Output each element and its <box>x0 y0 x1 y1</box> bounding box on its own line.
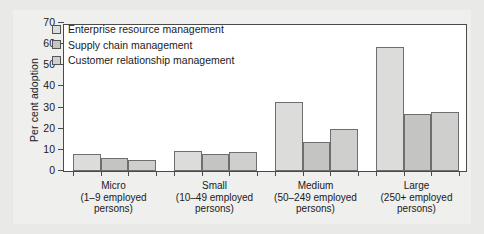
x-axis-tick <box>174 171 175 176</box>
chart-legend: Enterprise resource managementSupply cha… <box>52 22 234 69</box>
y-axis-tick-label: 40 <box>43 79 55 91</box>
category-name: Large <box>366 180 467 192</box>
legend-item[interactable]: Supply chain management <box>52 38 234 52</box>
bar <box>101 158 129 171</box>
x-axis-tick <box>303 171 304 176</box>
y-axis-tick: 20 <box>58 128 64 129</box>
bar <box>174 151 202 171</box>
x-axis-category-label: Large(250+ employedpersons) <box>366 180 467 215</box>
x-axis-category-label: Micro(1–9 employedpersons) <box>63 180 164 215</box>
x-axis-tick <box>275 171 276 176</box>
bar <box>404 114 432 171</box>
x-axis-tick <box>358 171 359 176</box>
y-axis-title: Per cent adoption <box>28 30 42 170</box>
x-axis-tick <box>73 171 74 176</box>
legend-swatch-icon <box>52 56 61 65</box>
legend-item[interactable]: Customer relationship management <box>52 53 234 67</box>
x-axis-tick <box>156 171 157 176</box>
x-axis-tick <box>376 171 377 176</box>
bar <box>229 152 257 171</box>
category-sublabel: persons) <box>164 203 265 215</box>
category-sublabel: (1–9 employed <box>63 192 164 204</box>
bar <box>275 102 303 171</box>
category-sublabel: persons) <box>265 203 366 215</box>
bar <box>376 47 404 171</box>
category-sublabel: (50–249 employed <box>265 192 366 204</box>
x-axis-tick <box>459 171 460 176</box>
legend-label: Enterprise resource management <box>68 23 224 35</box>
category-sublabel: persons) <box>366 203 467 215</box>
y-axis-tick: 40 <box>58 85 64 86</box>
x-axis-category-label: Medium(50–249 employedpersons) <box>265 180 366 215</box>
category-sublabel: (250+ employed <box>366 192 467 204</box>
y-axis-tick-label: 10 <box>43 143 55 155</box>
bar <box>303 142 331 171</box>
bar <box>431 112 459 171</box>
x-axis-tick <box>431 171 432 176</box>
category-name: Medium <box>265 180 366 192</box>
category-name: Micro <box>63 180 164 192</box>
legend-label: Supply chain management <box>68 39 192 51</box>
legend-swatch-icon <box>52 40 61 49</box>
x-axis-category-label: Small(10–49 employedpersons) <box>164 180 265 215</box>
x-axis-tick <box>330 171 331 176</box>
y-axis-tick-label: 30 <box>43 101 55 113</box>
y-axis-tick: 30 <box>58 107 64 108</box>
y-axis-tick-label: 20 <box>43 122 55 134</box>
x-axis-tick <box>404 171 405 176</box>
x-axis-tick <box>229 171 230 176</box>
category-sublabel: (10–49 employed <box>164 192 265 204</box>
category-sublabel: persons) <box>63 203 164 215</box>
category-name: Small <box>164 180 265 192</box>
bar <box>73 154 101 171</box>
chart-figure: Per cent adoption 010203040506070 Enterp… <box>0 0 484 234</box>
bar <box>202 154 230 171</box>
y-axis-tick: 10 <box>58 149 64 150</box>
legend-label: Customer relationship management <box>68 54 234 66</box>
y-axis-tick: 0 <box>58 170 64 171</box>
x-axis-tick <box>202 171 203 176</box>
x-axis-tick <box>257 171 258 176</box>
bar <box>330 129 358 171</box>
legend-swatch-icon <box>52 25 61 34</box>
x-axis-tick <box>101 171 102 176</box>
y-axis-tick-label: 0 <box>49 164 55 176</box>
legend-item[interactable]: Enterprise resource management <box>52 22 234 36</box>
bar <box>128 160 156 171</box>
x-axis-tick <box>128 171 129 176</box>
